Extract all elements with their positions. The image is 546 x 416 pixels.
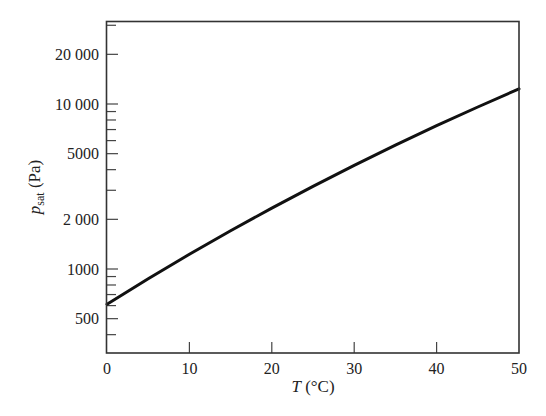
data-series xyxy=(107,89,519,304)
y-tick-label: 20 000 xyxy=(55,46,99,63)
y-tick-label: 10 000 xyxy=(55,96,99,113)
x-axis-label: T (°C) xyxy=(291,377,334,396)
saturation-pressure-curve xyxy=(107,89,519,304)
x-tick-label: 30 xyxy=(346,360,362,377)
y-tick-label: 2 000 xyxy=(63,211,99,228)
x-axis-ticks: 01020304050 xyxy=(103,342,527,377)
x-tick-label: 40 xyxy=(429,360,445,377)
x-tick-label: 20 xyxy=(264,360,280,377)
y-minor-ticks xyxy=(107,25,116,334)
x-tick-label: 0 xyxy=(103,360,111,377)
saturation-pressure-chart: 50010002 000500010 00020 000 01020304050… xyxy=(0,0,546,416)
y-tick-label: 5000 xyxy=(67,145,99,162)
y-axis-label: psat (Pa) xyxy=(25,160,47,215)
y-tick-label: 1000 xyxy=(67,261,99,278)
x-tick-label: 50 xyxy=(511,360,527,377)
y-tick-label: 500 xyxy=(75,310,99,327)
x-tick-label: 10 xyxy=(181,360,197,377)
